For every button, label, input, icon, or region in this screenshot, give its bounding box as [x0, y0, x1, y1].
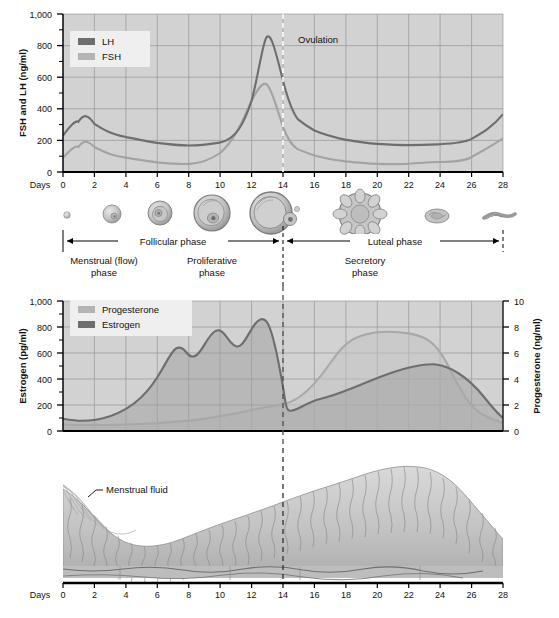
mid-y-tick-800: 800 [37, 323, 52, 333]
ovulation-label: Ovulation [298, 34, 338, 45]
top-day-tick-6: 6 [155, 180, 160, 190]
panel-ovarian-steroids: 1,000 800 600 400 200 0 10 8 6 4 2 0 Est… [17, 286, 542, 448]
bottom-day-tick-26: 26 [467, 590, 477, 600]
top-day-tick-22: 22 [404, 180, 414, 190]
top-day-tick-12: 12 [247, 180, 257, 190]
mid-y-right-tick-6: 6 [514, 349, 519, 359]
panel-gonadotropins: 1,000 800 600 400 200 0 FSH and LH (ng/m… [17, 10, 508, 191]
top-y-tick-0: 0 [47, 168, 52, 178]
top-day-tick-labels: 0246810121416182022242628 [60, 180, 508, 190]
legend-label-lh: LH [102, 36, 114, 47]
menstrual-cycle-figure: 1,000 800 600 400 200 0 FSH and LH (ng/m… [0, 0, 559, 618]
mid-y-axis-label-right: Progesterone (ng/ml) [531, 318, 542, 414]
mid-y-right-tick-10: 10 [514, 297, 524, 307]
label-luteal-phase: Luteal phase [368, 236, 422, 247]
top-day-tick-4: 4 [123, 180, 128, 190]
bottom-day-tick-0: 0 [60, 590, 65, 600]
bottom-day-tick-20: 20 [372, 590, 382, 600]
top-y-tick-800: 800 [37, 41, 52, 51]
legend-label-fsh: FSH [102, 51, 121, 62]
bottom-day-tick-10: 10 [215, 590, 225, 600]
bottom-day-tick-28: 28 [498, 590, 508, 600]
bottom-day-tick-18: 18 [341, 590, 351, 600]
label-menstrual-phase-line1: Menstrual (flow) [70, 255, 138, 266]
bottom-day-tick-16: 16 [309, 590, 319, 600]
bottom-day-tick-14: 14 [278, 590, 288, 600]
mid-y-right-tick-2: 2 [514, 401, 519, 411]
top-day-tick-10: 10 [215, 180, 225, 190]
mid-y-right-tick-0: 0 [514, 427, 519, 437]
top-day-tick-20: 20 [372, 180, 382, 190]
top-day-tick-8: 8 [186, 180, 191, 190]
top-day-tick-28: 28 [498, 180, 508, 190]
bottom-day-tick-22: 22 [404, 590, 414, 600]
mid-y-right-tick-8: 8 [514, 323, 519, 333]
legend-swatch-progesterone [78, 306, 95, 313]
label-proliferative-phase-line1: Proliferative [187, 255, 237, 266]
label-menstrual-phase-line2: phase [91, 267, 117, 278]
bottom-day-tick-2: 2 [92, 590, 97, 600]
top-y-tick-600: 600 [37, 73, 52, 83]
legend-swatch-fsh [78, 53, 95, 60]
legend-label-estrogen: Estrogen [102, 319, 140, 330]
label-follicular-phase: Follicular phase [140, 236, 207, 247]
bottom-day-tick-12: 12 [247, 590, 257, 600]
follicle-secondary [148, 201, 172, 225]
follicle-tertiary [194, 195, 230, 231]
mid-y-tick-0: 0 [47, 427, 52, 437]
top-day-tick-16: 16 [309, 180, 319, 190]
top-y-axis-label: FSH and LH (ng/ml) [17, 49, 28, 137]
legend-swatch-lh [78, 38, 95, 45]
mid-y-axis-label-left: Estrogen (pg/ml) [17, 328, 28, 403]
bottom-day-tick-24: 24 [435, 590, 445, 600]
legend-label-progesterone: Progesterone [102, 304, 159, 315]
mid-y-tick-600: 600 [37, 349, 52, 359]
top-days-axis-label: Days [30, 180, 51, 190]
mid-y-tick-200: 200 [37, 401, 52, 411]
bottom-days-axis-label: Days [30, 590, 51, 600]
corpus-luteum [333, 189, 387, 239]
menstrual-fluid-label: Menstrual fluid [106, 484, 168, 495]
bottom-day-tick-6: 6 [155, 590, 160, 600]
label-secretory-phase-line1: Secretory [345, 255, 386, 266]
label-proliferative-phase-line2: phase [199, 267, 225, 278]
top-day-tick-26: 26 [467, 180, 477, 190]
follicle-primary [103, 205, 121, 223]
top-day-tick-2: 2 [92, 180, 97, 190]
regressing-corpus-luteum [425, 209, 449, 223]
label-secretory-phase-line2: phase [352, 267, 378, 278]
follicle-primordial [64, 212, 71, 219]
bottom-day-tick-labels: 0246810121416182022242628 [60, 590, 508, 600]
top-day-tick-14: 14 [278, 180, 288, 190]
bottom-day-tick-8: 8 [186, 590, 191, 600]
mid-y-tick-1000: 1,000 [29, 297, 52, 307]
bottom-day-tick-4: 4 [123, 590, 128, 600]
top-y-tick-1000: 1,000 [29, 10, 52, 20]
mid-y-tick-400: 400 [37, 375, 52, 385]
top-day-tick-24: 24 [435, 180, 445, 190]
top-legend: LH FSH [70, 31, 150, 67]
mid-y-right-tick-4: 4 [514, 375, 519, 385]
top-y-tick-200: 200 [37, 136, 52, 146]
top-y-tick-400: 400 [37, 104, 52, 114]
legend-swatch-estrogen [78, 321, 95, 328]
top-day-tick-0: 0 [60, 180, 65, 190]
mid-legend: Progesterone Estrogen [70, 300, 192, 336]
top-day-tick-18: 18 [341, 180, 351, 190]
